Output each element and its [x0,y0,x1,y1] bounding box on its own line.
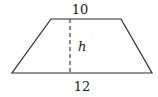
top-base-label: 10 [72,2,89,17]
trapezoid-diagram: 10 h 12 [0,0,158,97]
bottom-base-label: 12 [74,79,91,94]
height-label: h [78,39,86,54]
